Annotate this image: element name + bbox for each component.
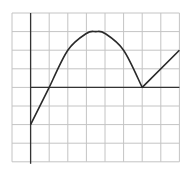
function-graph [0,0,187,175]
